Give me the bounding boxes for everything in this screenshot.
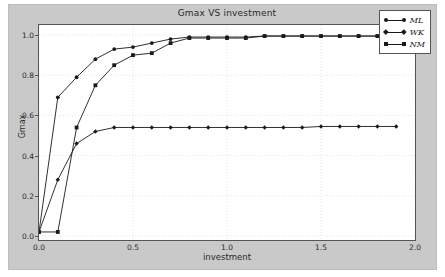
- y-tick-label: 0.0: [8, 231, 34, 240]
- series-ml: [39, 34, 398, 234]
- legend-swatch-diamond-icon: [384, 27, 406, 37]
- x-tick-label: 1.5: [315, 243, 327, 252]
- legend-swatch-square-icon: [384, 39, 406, 49]
- x-axis-label: investment: [38, 252, 416, 262]
- y-tick-label: 1.0: [8, 31, 34, 40]
- legend[interactable]: MLWKNM: [379, 10, 431, 54]
- y-tick-label: 0.4: [8, 151, 34, 160]
- legend-swatch-circle-icon: [384, 15, 406, 25]
- legend-item-nm[interactable]: NM: [384, 38, 425, 50]
- legend-item-ml[interactable]: ML: [384, 14, 425, 26]
- series-nm: [39, 34, 398, 234]
- series-wk: [39, 124, 398, 234]
- legend-label: ML: [410, 16, 424, 25]
- x-tick-label: 1.0: [221, 243, 233, 252]
- legend-label: WK: [410, 28, 424, 37]
- legend-label: NM: [410, 40, 425, 49]
- plot-area: [38, 24, 416, 241]
- y-tick-label: 0.8: [8, 71, 34, 80]
- x-tick-label: 0.5: [127, 243, 139, 252]
- y-tick-label: 0.6: [8, 111, 34, 120]
- x-tick-label: 0.0: [33, 243, 45, 252]
- series-canvas: [39, 25, 415, 240]
- y-tick-label: 0.2: [8, 191, 34, 200]
- y-axis-label: Gmax: [18, 97, 27, 157]
- legend-item-wk[interactable]: WK: [384, 26, 425, 38]
- figure-canvas: Gmax VS investment Gmax investment 0.00.…: [8, 4, 437, 270]
- x-tick-label: 2.0: [409, 243, 421, 252]
- chart-title: Gmax VS investment: [38, 8, 416, 18]
